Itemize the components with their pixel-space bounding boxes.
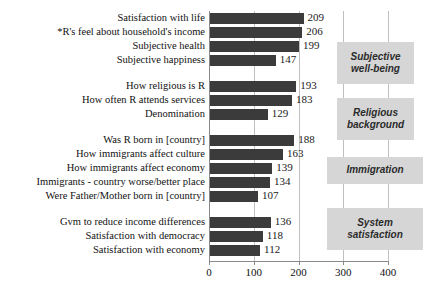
x-axis-tick-label: 0 [189, 266, 229, 279]
group-box-label-line: Religious [347, 107, 404, 120]
bar [210, 55, 276, 66]
bar [210, 81, 296, 92]
group-box-label: Immigration [343, 164, 406, 177]
x-axis-tick-label: 300 [323, 266, 363, 279]
group-box-label-line: System [347, 217, 403, 230]
category-label: Satisfaction with democracy [85, 230, 205, 242]
bar-value-label: 129 [272, 107, 289, 120]
bar-value-label: 134 [274, 175, 291, 188]
category-label: *R's feel about household's income [57, 26, 205, 38]
group-box-label-line: well-being [350, 63, 400, 76]
bar [210, 135, 294, 146]
bar-value-label: 118 [267, 229, 283, 242]
category-label: Immigrants - country worse/better place [36, 176, 205, 188]
category-label: How often R attends services [82, 94, 205, 106]
bar-row: 209 [210, 13, 389, 24]
x-axis-tick [343, 261, 344, 265]
group-box-label-line: satisfaction [347, 229, 403, 242]
category-label: Satisfaction with economy [93, 244, 205, 256]
bar-value-label: 183 [296, 93, 313, 106]
x-axis-tick [209, 261, 210, 265]
x-axis-tick [299, 261, 300, 265]
bar [210, 163, 272, 174]
category-label: How immigrants affect economy [67, 162, 205, 174]
group-box-label-line: background [347, 119, 404, 132]
bar-value-label: 206 [306, 25, 323, 38]
group-box: Religiousbackground [337, 98, 414, 140]
x-axis-tick [254, 261, 255, 265]
bar-value-label: 136 [275, 215, 292, 228]
bar [210, 149, 283, 160]
bar [210, 245, 260, 256]
bar-value-label: 199 [303, 39, 320, 52]
x-axis-tick-label: 100 [234, 266, 274, 279]
category-label: Were Father/Mother born in [country] [45, 190, 205, 202]
category-label: How immigrants affect culture [76, 148, 205, 160]
category-label: Subjective health [132, 40, 205, 52]
group-box-label: Subjectivewell-being [347, 51, 403, 76]
bar-value-label: 112 [264, 243, 280, 256]
category-label: How religious is R [126, 80, 205, 92]
category-label: Satisfaction with life [118, 12, 205, 24]
bar-value-label: 209 [308, 11, 325, 24]
x-axis-tick-label: 400 [368, 266, 408, 279]
x-axis-tick [388, 261, 389, 265]
bar-chart: 2092061991471931831291881631391341071361… [0, 0, 426, 292]
bar-value-label: 193 [300, 79, 317, 92]
bar [210, 95, 292, 106]
bar-row: 107 [210, 191, 389, 202]
bar [210, 231, 263, 242]
bar [210, 13, 304, 24]
bar [210, 191, 258, 202]
bar [210, 217, 271, 228]
group-box: Systemsatisfaction [327, 208, 423, 250]
x-axis-tick-label: 200 [279, 266, 319, 279]
bar [210, 177, 270, 188]
group-box-label: Religiousbackground [344, 107, 407, 132]
bar-value-label: 147 [280, 53, 297, 66]
group-box: Immigration [327, 157, 423, 184]
bar-value-label: 139 [276, 161, 293, 174]
bar [210, 27, 302, 38]
bar-value-label: 107 [262, 189, 279, 202]
bar-value-label: 163 [287, 147, 304, 160]
bar-row: 206 [210, 27, 389, 38]
category-label: Gvm to reduce income differences [60, 216, 205, 228]
group-box: Subjectivewell-being [337, 42, 414, 84]
bar [210, 41, 299, 52]
category-label: Was R born in [country] [103, 134, 205, 146]
category-label: Denomination [145, 108, 205, 120]
category-label: Subjective happiness [117, 54, 205, 66]
group-box-label-line: Subjective [350, 51, 400, 64]
bar [210, 109, 268, 120]
group-box-label: Systemsatisfaction [344, 217, 406, 242]
bar-value-label: 188 [298, 133, 315, 146]
